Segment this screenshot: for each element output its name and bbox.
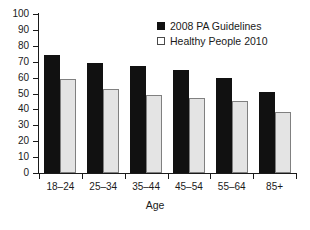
y-axis-tick-label: 50	[3, 89, 29, 99]
bar-1-5	[275, 112, 291, 173]
y-axis-tick-label: 60	[3, 73, 29, 83]
bar-1-3	[189, 98, 205, 173]
x-axis-tick	[125, 174, 126, 179]
y-axis-tick-label: 80	[3, 41, 29, 51]
bar-1-0	[60, 79, 76, 173]
bar-0-3	[173, 70, 189, 173]
legend: 2008 PA Guidelines Healthy People 2010	[157, 19, 268, 49]
y-axis-tick-label: 20	[3, 136, 29, 146]
x-axis-category-label: 45–54	[168, 181, 211, 192]
y-axis-tick-label: 90	[3, 25, 29, 35]
bar-0-4	[216, 78, 232, 173]
x-axis-tick	[210, 174, 211, 179]
legend-item-0: 2008 PA Guidelines	[157, 19, 268, 33]
y-axis-tick-label: 30	[3, 120, 29, 130]
x-axis-tick	[253, 174, 254, 179]
bar-0-1	[87, 63, 103, 174]
legend-label-0: 2008 PA Guidelines	[170, 21, 261, 32]
y-axis-tick-label: 40	[3, 104, 29, 114]
x-axis-tick	[296, 174, 297, 179]
bar-chart: 0102030405060708090100 18–2425–3435–4445…	[0, 0, 310, 230]
bar-0-0	[44, 55, 60, 173]
y-axis-tick-label: 10	[3, 152, 29, 162]
x-axis-category-label: 35–44	[125, 181, 168, 192]
legend-swatch-outlined-square-icon	[157, 37, 165, 45]
legend-swatch-filled-square-icon	[157, 22, 165, 30]
x-axis-tick	[168, 174, 169, 179]
legend-item-1: Healthy People 2010	[157, 34, 268, 48]
x-axis-tick	[82, 174, 83, 179]
bar-0-5	[259, 92, 275, 173]
bar-1-1	[103, 89, 119, 173]
legend-label-1: Healthy People 2010	[170, 36, 268, 47]
x-axis-category-label: 55–64	[210, 181, 253, 192]
bar-1-2	[146, 95, 162, 173]
x-axis-category-label: 18–24	[39, 181, 82, 192]
bar-1-4	[232, 101, 248, 173]
x-axis-tick	[39, 174, 40, 179]
bar-0-2	[130, 66, 146, 173]
x-axis-category-label: 85+	[253, 181, 296, 192]
y-axis-tick-label: 70	[3, 57, 29, 67]
x-axis-category-label: 25–34	[82, 181, 125, 192]
y-axis-tick-label: 100	[3, 9, 29, 19]
x-axis-title: Age	[0, 199, 310, 211]
y-axis-tick-label: 0	[3, 168, 29, 178]
